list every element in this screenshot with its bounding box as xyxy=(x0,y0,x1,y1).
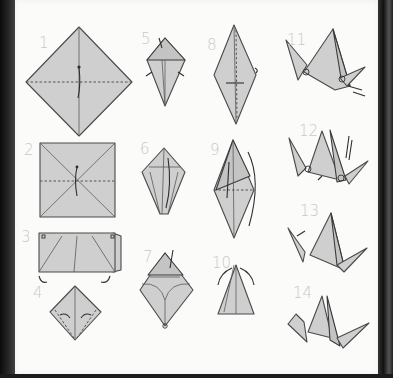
step-8-diagram xyxy=(214,25,257,124)
step-2-diagram xyxy=(40,143,115,217)
step-14-diagram xyxy=(288,296,369,348)
step-number-11: 11 xyxy=(287,33,306,48)
step-number-12: 12 xyxy=(299,124,318,139)
step-number-2: 2 xyxy=(24,143,34,158)
step-number-10: 10 xyxy=(212,256,231,271)
step-13-diagram xyxy=(288,213,367,272)
step-number-3: 3 xyxy=(21,230,31,245)
step-number-13: 13 xyxy=(300,204,319,219)
step-4-diagram xyxy=(50,286,101,340)
step-number-5: 5 xyxy=(141,32,151,47)
step-number-4: 4 xyxy=(33,286,43,301)
step-3-diagram xyxy=(39,233,121,282)
step-number-14: 14 xyxy=(293,286,312,301)
step-number-6: 6 xyxy=(140,142,150,157)
step-9-diagram xyxy=(214,140,255,238)
crane-diagrams xyxy=(0,0,393,378)
step-number-9: 9 xyxy=(210,143,220,158)
step-number-8: 8 xyxy=(207,38,217,53)
step-10-diagram xyxy=(218,265,254,314)
step-number-7: 7 xyxy=(143,250,153,265)
step-5-diagram xyxy=(146,38,185,106)
step-number-1: 1 xyxy=(39,36,49,51)
